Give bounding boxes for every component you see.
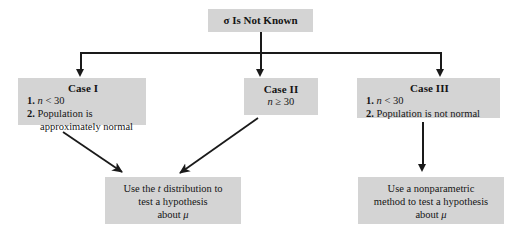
case-3-line-1: 1. n < 30 (366, 95, 493, 108)
case-1-line-3: approximately normal (27, 121, 139, 134)
case-1-line-1: 1. n < 30 (27, 95, 139, 108)
case-3-box: Case III 1. n < 30 2. Population is not … (357, 78, 500, 118)
case-1-title: Case I (27, 82, 139, 95)
case-2-box: Case II n ≥ 30 (244, 78, 318, 115)
branch-to-case-2-arrowhead (256, 69, 264, 77)
case-3-title: Case III (366, 82, 493, 95)
case-3-to-conclusion-right-line (422, 122, 424, 166)
conclusion-right-line-2: method to test a hypothesis (363, 196, 499, 209)
conclusion-right-line-3: about μ (363, 209, 499, 222)
conclusion-left-line-3: about μ (110, 209, 236, 222)
root-to-branch-bar-line (260, 32, 262, 53)
case-2-title: Case II (248, 83, 314, 96)
case-1-to-conclusion-left-line (63, 132, 122, 172)
case-3-line-2: 2. Population is not normal (366, 108, 493, 121)
case-1-box: Case I 1. n < 30 2. Population is approx… (18, 78, 146, 125)
flowchart-diagram: σ Is Not Known Case I 1. n < 30 2. Popul… (0, 0, 517, 238)
case-2-to-conclusion-left-line (180, 118, 258, 173)
conclusion-right-line-1: Use a nonparametric (363, 183, 499, 196)
case-2-line-1: n ≥ 30 (248, 96, 314, 109)
case-3-to-conclusion-right-arrowhead (418, 164, 426, 172)
branch-to-case-1-arrowhead (76, 69, 84, 77)
conclusion-left-line-2: test a hypothesis (110, 196, 236, 209)
case-1-line-2: 2. Population is (27, 108, 139, 121)
conclusion-left-line-1: Use the t distribution to (110, 183, 236, 196)
branch-to-case-3-arrowhead (436, 69, 444, 77)
conclusion-right-box: Use a nonparametric method to test a hyp… (358, 177, 504, 224)
conclusion-left-box: Use the t distribution to test a hypothe… (105, 177, 241, 224)
root-box-label: σ Is Not Known (223, 14, 297, 27)
root-box: σ Is Not Known (208, 9, 313, 32)
